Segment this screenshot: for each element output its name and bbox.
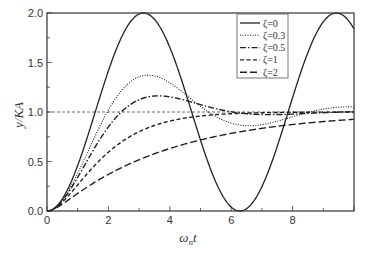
- x-tick-label: 6: [228, 214, 234, 226]
- legend-label: ζ=1: [263, 54, 278, 66]
- legend-label: ζ=0.3: [263, 30, 285, 42]
- x-axis-label: ωnt: [179, 230, 197, 247]
- curve-ζ=1: [47, 112, 354, 211]
- y-tick-label: 0.0: [28, 205, 43, 217]
- curve-ζ=2: [47, 119, 354, 211]
- y-tick-label: 1.0: [28, 106, 43, 118]
- x-tick-label: 8: [290, 214, 296, 226]
- legend-label: ζ=2: [263, 67, 278, 79]
- curve-ζ=0.3: [47, 75, 354, 211]
- x-tick-label: 0: [44, 214, 50, 226]
- x-tick-label: 2: [105, 214, 111, 226]
- legend-label: ζ=0: [263, 18, 278, 30]
- step-response-chart: 024680.00.51.01.52.0 ζ=0ζ=0.3ζ=0.5ζ=1ζ=2…: [0, 0, 366, 253]
- y-axis-label: y/KA: [11, 102, 26, 130]
- legend: ζ=0ζ=0.3ζ=0.5ζ=1ζ=2: [237, 14, 288, 79]
- curve-ζ=0.5: [47, 96, 354, 211]
- y-tick-label: 2.0: [28, 7, 43, 19]
- y-tick-label: 0.5: [28, 156, 43, 168]
- y-tick-label: 1.5: [28, 57, 43, 69]
- legend-label: ζ=0.5: [263, 42, 285, 54]
- x-tick-label: 4: [167, 214, 173, 226]
